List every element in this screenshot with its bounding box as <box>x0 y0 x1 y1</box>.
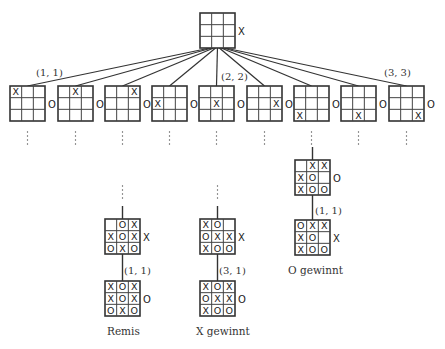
ellipsis-dots <box>311 139 312 140</box>
x-mark: X <box>131 293 138 304</box>
level1-board: XO <box>294 86 340 121</box>
o-mark: O <box>119 281 126 292</box>
ellipsis-dots <box>406 143 407 144</box>
ellipsis-dots <box>169 131 170 132</box>
ellipsis-dots <box>264 135 265 136</box>
level1-board: XO <box>199 86 245 121</box>
ellipsis-dots <box>264 131 265 132</box>
x-mark: X <box>155 98 162 109</box>
x-mark: X <box>214 293 221 304</box>
x-mark: X <box>203 243 210 254</box>
ellipsis-dots <box>406 131 407 132</box>
level1-board: XO <box>341 86 387 121</box>
level1-board: XO <box>58 86 104 121</box>
ellipsis-dots <box>122 135 123 136</box>
ellipsis-dots <box>217 197 218 198</box>
ellipsis-dots <box>358 131 359 132</box>
ellipsis-dots <box>311 135 312 136</box>
ellipsis-dots <box>122 139 123 140</box>
level1-board: XO <box>10 86 56 121</box>
to-move-label: O <box>427 99 435 110</box>
o-mark: O <box>119 231 126 242</box>
level1-board: XO <box>152 86 198 121</box>
ellipsis-dots <box>217 189 218 190</box>
to-move-label: O <box>237 99 245 110</box>
ellipsis-dots <box>406 139 407 140</box>
to-move-label: O <box>238 294 246 305</box>
result-label: Remis <box>107 325 140 337</box>
o-mark: O <box>202 231 209 242</box>
branch-after-board: XOXOXXXOOO <box>200 281 246 316</box>
root-board: X <box>200 13 245 48</box>
branch-before-board: XOOXXXOOX <box>200 219 245 254</box>
o-mark: O <box>119 219 126 230</box>
o-mark: O <box>107 243 114 254</box>
ellipsis-dots <box>27 135 28 136</box>
to-move-label: X <box>238 232 245 243</box>
ellipsis-dots <box>217 193 218 194</box>
x-mark: X <box>226 293 233 304</box>
edge-label-1-1: (1, 1) <box>36 67 63 78</box>
x-mark: X <box>273 98 280 109</box>
to-move-label: X <box>333 233 340 244</box>
game-tree-diagram: XXOXOXOXOXOXOXOXOXO(1, 1)(2, 2)(3, 3)OXX… <box>0 0 445 349</box>
to-move-label: X <box>238 26 245 37</box>
ellipsis-dots <box>264 143 265 144</box>
ellipsis-dots <box>216 139 217 140</box>
level1-board: XO <box>389 86 435 121</box>
x-mark: X <box>297 110 304 121</box>
level1-board: XO <box>105 86 151 121</box>
move-label: (3, 1) <box>219 265 246 276</box>
branch-after-board: OXXXOXOOX <box>295 220 340 255</box>
to-move-label: X <box>143 232 150 243</box>
ellipsis-dots <box>311 131 312 132</box>
x-mark: X <box>298 244 305 255</box>
to-move-label: O <box>96 99 104 110</box>
tree-edge <box>217 48 218 86</box>
to-move-label: O <box>379 99 387 110</box>
x-mark: X <box>108 293 115 304</box>
x-mark: X <box>131 86 138 97</box>
o-mark: O <box>214 305 221 316</box>
ellipsis-dots <box>216 135 217 136</box>
x-mark: X <box>298 232 305 243</box>
x-mark: X <box>13 86 20 97</box>
ellipsis-dots <box>122 131 123 132</box>
o-mark: O <box>130 243 137 254</box>
x-mark: X <box>298 184 305 195</box>
o-mark: O <box>309 184 316 195</box>
branch-before-board: OXXOXOXOX <box>105 219 150 254</box>
ellipsis-dots <box>75 131 76 132</box>
branch-after-board: XOXXOXOXOO <box>105 281 151 316</box>
o-mark: O <box>225 305 232 316</box>
x-mark: X <box>119 305 126 316</box>
ellipsis-dots <box>122 193 123 194</box>
o-mark: O <box>320 184 327 195</box>
ellipsis-dots <box>27 131 28 132</box>
ellipsis-dots <box>75 135 76 136</box>
o-mark: O <box>130 305 137 316</box>
to-move-label: O <box>143 99 151 110</box>
ellipsis-dots <box>311 143 312 144</box>
edge-label-3-3: (3, 3) <box>384 67 411 78</box>
to-move-label: O <box>48 99 56 110</box>
ellipsis-dots <box>122 197 123 198</box>
board-frame <box>200 13 235 48</box>
ellipsis-dots <box>358 143 359 144</box>
x-mark: X <box>119 243 126 254</box>
x-mark: X <box>321 160 328 171</box>
x-mark: X <box>131 231 138 242</box>
to-move-label: O <box>143 294 151 305</box>
tree-edge <box>225 48 406 86</box>
o-mark: O <box>297 220 304 231</box>
ellipsis-dots <box>75 139 76 140</box>
to-move-label: O <box>332 99 340 110</box>
result-label: X gewinnt <box>196 325 251 337</box>
o-mark: O <box>214 243 221 254</box>
ellipsis-dots <box>122 189 123 190</box>
to-move-label: O <box>285 99 293 110</box>
x-mark: X <box>203 305 210 316</box>
x-mark: X <box>108 281 115 292</box>
edge-label-2-2: (2, 2) <box>221 71 248 82</box>
move-label: (1, 1) <box>315 205 342 216</box>
